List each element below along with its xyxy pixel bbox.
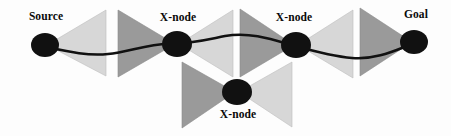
node-source[interactable] bbox=[31, 33, 59, 57]
label-goal: Goal bbox=[404, 8, 428, 20]
node-xnode-2[interactable] bbox=[281, 32, 311, 58]
diagram-svg: Source X-node X-node Goal X-node bbox=[0, 0, 451, 136]
label-source: Source bbox=[29, 10, 63, 22]
node-goal[interactable] bbox=[400, 30, 428, 54]
label-xnode-1: X-node bbox=[160, 11, 196, 23]
diagram-canvas: Source X-node X-node Goal X-node bbox=[0, 0, 451, 136]
node-xnode-3[interactable] bbox=[222, 79, 252, 105]
node-xnode-1[interactable] bbox=[162, 31, 192, 57]
label-xnode-3: X-node bbox=[220, 108, 256, 120]
label-xnode-2: X-node bbox=[276, 11, 312, 23]
